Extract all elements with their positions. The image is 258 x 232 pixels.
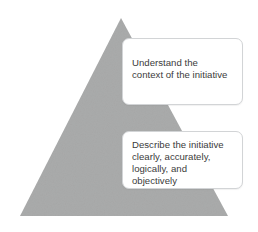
- callout-box-understand[interactable]: Understand the context of the initiative: [122, 38, 243, 105]
- callout-text-understand: Understand the context of the initiative: [132, 57, 227, 81]
- diagram-canvas: Understand the context of the initiative…: [0, 0, 258, 232]
- callout-text-describe: Describe the initiative clearly, accurat…: [132, 139, 224, 187]
- callout-box-describe[interactable]: Describe the initiative clearly, accurat…: [122, 131, 243, 189]
- pyramid-shape: [0, 0, 258, 232]
